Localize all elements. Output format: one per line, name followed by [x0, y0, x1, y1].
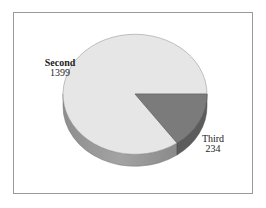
pie-chart — [0, 0, 266, 208]
label-third-value: 234 — [198, 144, 228, 154]
data-label-second: Second 1399 — [42, 58, 78, 78]
label-second-value: 1399 — [42, 68, 78, 78]
data-label-third: Third 234 — [198, 134, 228, 154]
